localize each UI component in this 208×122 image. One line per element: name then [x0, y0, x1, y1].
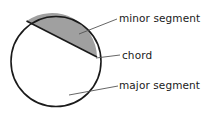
label-major-segment: major segment: [119, 79, 200, 91]
label-minor-segment: minor segment: [119, 12, 200, 24]
minor-segment-shaded-region: [27, 13, 98, 57]
circle-segment-diagram: minor segment chord major segment: [0, 0, 208, 122]
label-chord: chord: [122, 49, 152, 61]
leader-line-chord: [96, 55, 120, 58]
